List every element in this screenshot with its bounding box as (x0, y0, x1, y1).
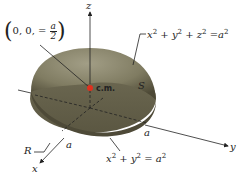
x-axis-label: x (32, 164, 38, 174)
region-label: R (24, 146, 32, 156)
radius-x-label: a (66, 140, 72, 150)
center-of-mass-label: c.m. (96, 84, 115, 93)
center-of-mass-point (87, 85, 93, 91)
center-point-label: (0, 0, = a2) (4, 20, 66, 42)
sphere-equation: x2 + y2 + z2 =a2 (147, 29, 229, 40)
radius-y-label: a (144, 128, 150, 138)
y-axis-label: y (230, 142, 236, 152)
disk-equation: x2 + y2 = a2 (106, 153, 166, 164)
z-axis-label: z (86, 1, 91, 11)
surface-label: S (138, 81, 145, 91)
hemisphere-diagram: z y x (0, 0, = a2) x2 + y2 + z2 =a2 S c.… (0, 0, 240, 182)
